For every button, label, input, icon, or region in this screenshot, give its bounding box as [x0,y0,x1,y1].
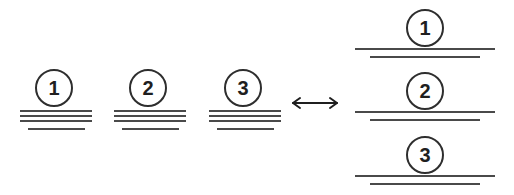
left-item-3-rule-4 [217,128,274,130]
left-node-circle-1[interactable]: 1 [35,69,73,107]
right-node-circle-1[interactable]: 1 [406,9,444,47]
right-item-3-rule-2 [370,183,480,185]
left-node-label-2: 2 [142,78,153,98]
right-node-label-1: 1 [419,18,430,38]
right-node-circle-3[interactable]: 3 [406,136,444,174]
right-item-2-rule-2 [370,119,480,121]
left-item-3-rule-3 [209,120,281,122]
right-node-circle-2[interactable]: 2 [406,72,444,110]
right-node-label-2: 2 [419,81,430,101]
left-item-1-rule-3 [20,120,92,122]
double-headed-arrow-icon [291,94,339,112]
left-item-1-rule-1 [20,110,92,112]
left-item-2-rule-1 [114,110,186,112]
left-item-1-rule-4 [28,128,85,130]
right-item-2-rule-1 [355,111,495,113]
left-item-1-rule-2 [20,115,92,117]
left-node-circle-2[interactable]: 2 [129,69,167,107]
left-node-circle-3[interactable]: 3 [224,69,262,107]
left-item-2-rule-4 [122,128,179,130]
left-item-3-rule-1 [209,110,281,112]
right-item-1-rule-2 [370,56,480,58]
diagram-canvas: 123 123 [0,0,514,195]
left-item-3-rule-2 [209,115,281,117]
right-item-3-rule-1 [355,175,495,177]
left-node-label-3: 3 [237,78,248,98]
left-item-2-rule-2 [114,115,186,117]
right-item-1-rule-1 [355,48,495,50]
right-node-label-3: 3 [419,145,430,165]
bidirectional-arrow [291,94,339,112]
left-item-2-rule-3 [114,120,186,122]
left-node-label-1: 1 [48,78,59,98]
